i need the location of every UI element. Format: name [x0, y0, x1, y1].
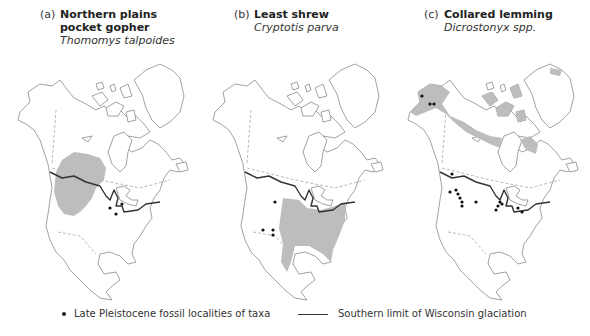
fossil-locality-dot	[460, 200, 463, 203]
legend-fossil-localities: Late Pleistocene fossil localities of ta…	[62, 308, 270, 319]
fossil-locality-dot	[516, 206, 519, 209]
scientific-name: Cryptotis parva	[254, 21, 339, 34]
map-panel-c	[390, 40, 590, 302]
legend-glaciation: Southern limit of Wisconsin glaciation	[298, 308, 527, 319]
fossil-dot-icon	[62, 312, 66, 316]
fossil-locality-dot	[460, 204, 463, 207]
panel-letter: (b)	[234, 8, 250, 21]
panel-letter: (c)	[424, 8, 439, 21]
fossil-locality-dot	[454, 188, 457, 191]
map-panel-a	[0, 40, 200, 302]
fossil-locality-dot	[496, 204, 499, 207]
fossil-locality-dot	[271, 233, 274, 236]
fossil-locality-dot	[120, 202, 123, 205]
fossil-locality-dot	[456, 192, 459, 195]
fossil-locality-dot	[428, 102, 431, 105]
legend-fossil-label: Late Pleistocene fossil localities of ta…	[74, 308, 270, 319]
fossil-locality-dot	[520, 210, 523, 213]
fossil-locality-dot	[500, 202, 503, 205]
fossil-locality-dot	[261, 228, 264, 231]
fossil-locality-dot	[450, 172, 453, 175]
fossil-locality-dot	[474, 200, 477, 203]
common-name: Least shrew	[254, 8, 329, 21]
panel-letter: (a)	[40, 8, 55, 21]
fossil-locality-dot	[271, 228, 274, 231]
common-name: Northern plains pocket gopher	[60, 8, 170, 34]
fossil-locality-dot	[420, 94, 423, 97]
fossil-locality-dot	[448, 190, 451, 193]
common-name: Collared lemming	[444, 8, 553, 21]
glaciation-line-icon	[298, 314, 328, 315]
fossil-locality-dot	[458, 196, 461, 199]
fossil-locality-dot	[273, 200, 276, 203]
map-panel-b	[195, 40, 395, 302]
fossil-locality-dot	[114, 212, 117, 215]
fossil-locality-dot	[108, 206, 111, 209]
fossil-locality-dot	[432, 102, 435, 105]
north-america-outline	[213, 64, 383, 300]
legend-glaciation-label: Southern limit of Wisconsin glaciation	[338, 308, 527, 319]
fossil-locality-dot	[494, 208, 497, 211]
scientific-name: Dicrostonyx spp.	[444, 21, 536, 34]
north-america-outline	[18, 64, 188, 300]
